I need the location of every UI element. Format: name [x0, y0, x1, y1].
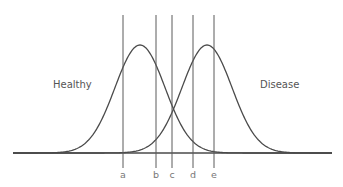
- disease-label: Disease: [260, 79, 299, 90]
- healthy-label: Healthy: [53, 79, 92, 90]
- cutoff-label-c: c: [169, 169, 174, 180]
- cutoff-label-d: d: [190, 169, 196, 180]
- cutoff-label-e: e: [211, 169, 217, 180]
- cutoff-label-b: b: [153, 169, 159, 180]
- cutoff-label-a: a: [120, 169, 126, 180]
- distribution-diagram: Healthy Disease a b c d e: [0, 0, 343, 187]
